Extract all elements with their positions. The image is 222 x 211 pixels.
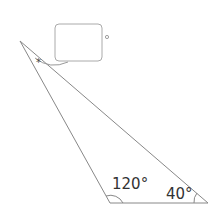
bottom-left-angle-arc [106,195,123,203]
triangle-diagram: * 120° 40° [0,0,222,211]
answer-box[interactable] [55,24,102,61]
degree-symbol-icon [105,35,108,38]
bottom-right-angle-arc [194,193,197,203]
top-angle-marker: * [36,57,41,68]
angle-label-40: 40° [166,185,193,203]
angle-label-120: 120° [112,175,148,193]
